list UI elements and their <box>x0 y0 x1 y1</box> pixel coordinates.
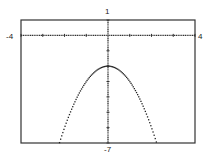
curve-point <box>77 97 78 98</box>
curve-point <box>126 77 127 78</box>
curve-point <box>83 85 84 86</box>
curve-point <box>148 119 149 120</box>
curve-point <box>136 92 137 93</box>
curve-point <box>150 125 151 126</box>
curve-point <box>61 135 62 136</box>
curve-point <box>149 122 150 123</box>
curve-point <box>78 94 79 95</box>
curve-point <box>129 81 130 82</box>
curve-point <box>71 109 72 110</box>
curve-point <box>59 142 60 143</box>
curve-point <box>91 74 92 75</box>
curve-point <box>147 116 148 117</box>
curve-point <box>143 106 144 107</box>
curve-point <box>138 96 139 97</box>
curve-point <box>135 90 136 91</box>
curve-point <box>84 83 85 84</box>
curve-point <box>74 101 75 102</box>
curve-point <box>60 139 61 140</box>
curve-point <box>63 129 64 130</box>
curve-point <box>133 86 134 87</box>
curve-point <box>70 111 71 112</box>
curve-point <box>90 76 91 77</box>
curve-point <box>146 113 147 114</box>
curve-point <box>124 74 125 75</box>
plot-area <box>0 0 204 157</box>
curve-point <box>140 101 141 102</box>
curve-point <box>134 88 135 89</box>
curve-point <box>155 138 156 139</box>
curve-point <box>68 117 69 118</box>
curve-point <box>72 106 73 107</box>
curve-point <box>88 78 89 79</box>
curve-point <box>79 92 80 93</box>
curve-point <box>81 88 82 89</box>
curve-point <box>85 81 86 82</box>
curve-point <box>132 84 133 85</box>
curve-point <box>67 120 68 121</box>
curve-point <box>127 78 128 79</box>
curve-point <box>128 80 129 81</box>
curve-point <box>125 75 126 76</box>
curve-point <box>62 132 63 133</box>
curve-point <box>130 83 131 84</box>
curve-point <box>75 99 76 100</box>
curve-point <box>139 98 140 99</box>
curve-point <box>86 80 87 81</box>
curve-point <box>152 131 153 132</box>
curve-point <box>145 111 146 112</box>
curve-point <box>73 104 74 105</box>
curve-point <box>141 103 142 104</box>
curve-point <box>80 90 81 91</box>
curve-point <box>151 128 152 129</box>
curve-point <box>144 108 145 109</box>
curve-point <box>154 135 155 136</box>
curve-point <box>64 126 65 127</box>
curve-point <box>66 123 67 124</box>
curve-point <box>137 94 138 95</box>
curve-point <box>156 141 157 142</box>
curve-point <box>123 73 124 74</box>
curve-point <box>89 77 90 78</box>
curve-point <box>69 114 70 115</box>
curve-point <box>82 86 83 87</box>
